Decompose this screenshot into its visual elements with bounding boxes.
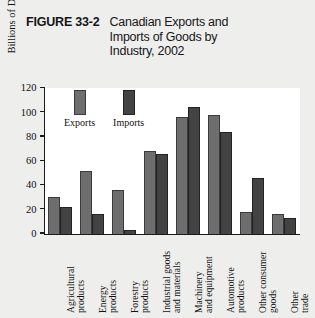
bar-group: [80, 171, 104, 234]
bar-imports[interactable]: [60, 207, 72, 234]
chart-plot-panel: 020406080100120 Exports Imports: [44, 88, 300, 235]
legend-item-exports: Exports: [64, 90, 95, 128]
y-tick-label-20: 20: [26, 203, 37, 214]
bar-group: [208, 115, 232, 234]
y-tick-100: 100: [40, 111, 45, 112]
bar-group: [176, 107, 200, 233]
y-tick-20: 20: [40, 208, 45, 209]
y-tick-label-80: 80: [26, 130, 37, 141]
legend-label-imports: Imports: [113, 117, 144, 128]
figure-header: FIGURE 33-2 Canadian Exports and Imports…: [26, 15, 296, 59]
x-category-label: Machineryand equipment: [194, 256, 215, 313]
bar-exports[interactable]: [272, 214, 284, 233]
y-tick-label-100: 100: [21, 106, 37, 117]
bar-exports[interactable]: [48, 197, 60, 233]
bar-imports[interactable]: [220, 132, 232, 234]
bar-exports[interactable]: [144, 151, 156, 234]
bar-group: [240, 178, 264, 234]
bar-exports[interactable]: [112, 190, 124, 234]
bar-exports[interactable]: [176, 117, 188, 233]
y-tick-60: 60: [40, 160, 45, 161]
y-tick-label-60: 60: [26, 155, 37, 166]
y-axis-line: [44, 88, 45, 235]
bar-exports[interactable]: [208, 115, 220, 234]
y-axis-title: Billions of Dollars: [6, 0, 17, 88]
bar-imports[interactable]: [188, 107, 200, 233]
y-tick-label-0: 0: [31, 228, 36, 239]
legend-item-imports: Imports: [113, 90, 144, 128]
x-category-label-line: trade: [300, 291, 310, 313]
x-category-label-line: goods: [268, 251, 278, 313]
bar-group: [272, 214, 296, 233]
bar-imports[interactable]: [252, 178, 264, 234]
y-tick-0: 0: [40, 232, 45, 233]
legend-swatch-exports: [74, 90, 86, 115]
bar-group: [144, 151, 168, 234]
x-category-label: Othertrade: [290, 291, 311, 313]
bar-imports[interactable]: [156, 154, 168, 234]
chart-legend: Exports Imports: [64, 90, 144, 128]
bar-group: [112, 190, 136, 234]
x-category-label-line: and equipment: [204, 256, 214, 313]
y-tick-80: 80: [40, 135, 45, 136]
legend-label-exports: Exports: [64, 117, 95, 128]
figure-number: FIGURE 33-2: [26, 15, 100, 29]
bar-imports[interactable]: [124, 230, 136, 234]
figure-container: FIGURE 33-2 Canadian Exports and Imports…: [0, 0, 315, 318]
x-category-label: Automotiveproducts: [226, 267, 247, 313]
x-category-label-line: products: [108, 280, 118, 313]
x-category-label: Forestryproducts: [130, 280, 151, 313]
x-category-label: Industrial goodsand materials: [162, 251, 183, 313]
x-axis-category-labels: AgriculturalproductsEnergyproductsForest…: [44, 237, 300, 315]
y-tick-120: 120: [40, 87, 45, 88]
x-category-label-line: products: [140, 280, 150, 313]
figure-title: Canadian Exports and Imports of Goods by…: [110, 15, 260, 59]
y-tick-40: 40: [40, 184, 45, 185]
x-category-label: Agriculturalproducts: [66, 266, 87, 313]
y-tick-label-120: 120: [21, 82, 37, 93]
bar-exports[interactable]: [80, 171, 92, 234]
bar-exports[interactable]: [240, 212, 252, 234]
plot-area: 020406080100120 Exports Imports: [44, 88, 300, 235]
x-category-label-line: products: [236, 267, 246, 313]
bar-imports[interactable]: [284, 218, 296, 234]
bar-group: [48, 197, 72, 233]
y-tick-label-40: 40: [26, 179, 37, 190]
bar-imports[interactable]: [92, 214, 104, 233]
legend-swatch-imports: [123, 90, 135, 115]
x-axis-line: [44, 234, 300, 235]
x-category-label-line: and materials: [172, 251, 182, 313]
x-category-label: Other consumergoods: [258, 251, 279, 313]
x-category-label-line: products: [76, 266, 86, 313]
x-category-label: Energyproducts: [98, 280, 119, 313]
